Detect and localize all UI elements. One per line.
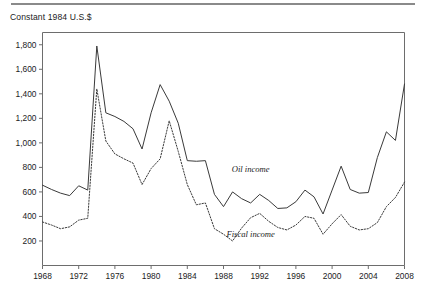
y-tick-label: 1,800 (16, 40, 37, 50)
plot-frame-box (43, 33, 405, 266)
x-tick-label: 2008 (395, 271, 414, 281)
x-tick-label: 1968 (33, 271, 52, 281)
series-label-oil-income: Oil income (232, 164, 270, 174)
y-tick-label: 400 (23, 211, 37, 221)
x-tick-label: 2004 (359, 271, 378, 281)
y-tick-label: 1,400 (16, 89, 37, 99)
x-tick-label: 1984 (178, 271, 197, 281)
x-tick-label: 1996 (287, 271, 306, 281)
x-tick-label: 1988 (214, 271, 233, 281)
x-tick-label: 2000 (323, 271, 342, 281)
y-tick-label: 600 (23, 187, 37, 197)
series-line-fiscal-income (43, 89, 405, 241)
series-annotations: Oil incomeFiscal income (225, 164, 275, 239)
x-tick-label: 1992 (250, 271, 269, 281)
y-tick-label: 1,600 (16, 64, 37, 74)
y-axis-ticks: 2004006008001,0001,2001,4001,6001,800 (16, 40, 43, 246)
line-chart-plot: 2004006008001,0001,2001,4001,6001,800 19… (0, 0, 427, 298)
y-tick-label: 1,000 (16, 138, 37, 148)
x-tick-label: 1972 (69, 271, 88, 281)
data-series-group (43, 46, 405, 241)
figure-container: Constant 1984 U.S.$ 2004006008001,0001,2… (0, 0, 427, 298)
x-tick-label: 1976 (106, 271, 125, 281)
series-label-fiscal-income: Fiscal income (225, 229, 275, 239)
y-tick-label: 1,200 (16, 113, 37, 123)
series-line-oil-income (43, 46, 405, 214)
x-axis-ticks: 1968197219761980198419881992199620002004… (33, 266, 414, 281)
y-tick-label: 800 (23, 162, 37, 172)
plot-frame (43, 33, 405, 266)
x-tick-label: 1980 (142, 271, 161, 281)
y-tick-label: 200 (23, 236, 37, 246)
